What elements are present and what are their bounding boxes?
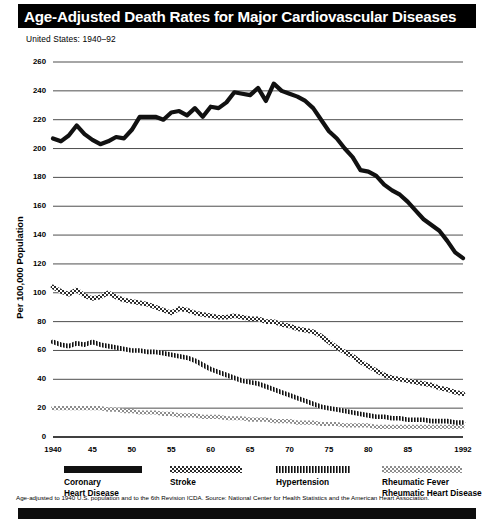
series-line bbox=[53, 84, 463, 259]
legend-item: Stroke bbox=[170, 466, 242, 488]
x-tick-label: 85 bbox=[388, 445, 428, 454]
y-tick-label: 80 bbox=[12, 317, 46, 326]
x-tick-label: 50 bbox=[112, 445, 152, 454]
chart-svg bbox=[0, 0, 488, 519]
y-tick-label: 220 bbox=[12, 115, 46, 124]
x-tick-label: 80 bbox=[348, 445, 388, 454]
x-tick-label: 60 bbox=[191, 445, 231, 454]
x-tick-label: 55 bbox=[151, 445, 191, 454]
x-tick-label: 70 bbox=[270, 445, 310, 454]
x-tick-label: 75 bbox=[309, 445, 349, 454]
y-tick-label: 240 bbox=[12, 86, 46, 95]
series-line bbox=[53, 287, 463, 394]
x-tick-label: 45 bbox=[72, 445, 112, 454]
y-tick-label: 120 bbox=[12, 259, 46, 268]
x-tick-label: 65 bbox=[230, 445, 270, 454]
bottom-bar bbox=[18, 508, 476, 519]
legend-swatch bbox=[64, 466, 142, 473]
legend-swatch bbox=[170, 466, 242, 473]
y-tick-label: 160 bbox=[12, 201, 46, 210]
legend-item: Hypertension bbox=[276, 466, 350, 488]
chart-footnote: Age-adjusted to 1940 U.S. population and… bbox=[16, 494, 429, 501]
series-layer bbox=[53, 84, 463, 427]
y-tick-label: 200 bbox=[12, 144, 46, 153]
y-tick-label: 140 bbox=[12, 230, 46, 239]
chart-page: Age-Adjusted Death Rates for Major Cardi… bbox=[0, 0, 488, 519]
y-tick-label: 180 bbox=[12, 172, 46, 181]
legend-label: Rheumatic Fever bbox=[382, 477, 482, 488]
legend-swatch bbox=[276, 466, 350, 473]
legend-label: Coronary bbox=[64, 477, 142, 488]
chart-area: Per 100,000 Population bbox=[0, 0, 488, 519]
y-tick-label: 0 bbox=[12, 432, 46, 441]
legend-swatch bbox=[382, 466, 462, 473]
x-tick-label: 1992 bbox=[443, 445, 483, 454]
y-tick-label: 20 bbox=[12, 403, 46, 412]
y-tick-label: 100 bbox=[12, 288, 46, 297]
x-tick-label: 1940 bbox=[33, 445, 73, 454]
legend-label: Stroke bbox=[170, 477, 242, 488]
y-tick-label: 40 bbox=[12, 374, 46, 383]
legend-label: Hypertension bbox=[276, 477, 350, 488]
y-tick-label: 260 bbox=[12, 57, 46, 66]
y-tick-label: 60 bbox=[12, 345, 46, 354]
